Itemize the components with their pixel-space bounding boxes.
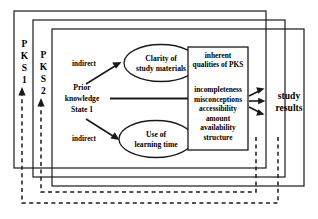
pks1-label-char-1: K [21,51,29,61]
qualities-heading-line-0: inherent [205,51,232,60]
diagram-canvas: P K S 1 P K S 2 Prior knowledge State 1 [0,0,318,219]
clarity-line-0: Clarity of [145,54,177,63]
indirect-label-top: indirect [72,60,96,68]
node-use-of-learning-time: Use of learning time [119,121,193,158]
qualities-item-1: misconceptions [194,95,242,104]
node-study-results: study results [275,90,302,113]
qualities-item-0: incompleteness [194,85,242,94]
learning-time-line-0: Use of [146,130,167,139]
feedback-loop-pks2-arrowhead [37,98,44,107]
qualities-heading-line-1: qualities of PKS [193,60,244,69]
feedback-loop-pks1-arrowhead [18,87,25,96]
indirect-label-bottom: indirect [72,135,96,143]
link-indirect-clarity-line [86,66,115,84]
link-study-results-arrowhead-1 [258,98,265,105]
learning-time-ellipse [119,121,193,158]
qualities-item-4: availability [200,123,236,132]
pks2-label-char-0: P [40,50,46,60]
prior-knowledge-state-diagram: P K S 1 P K S 2 Prior knowledge State 1 [0,0,318,219]
link-indirect-learning-time: indirect [72,119,119,143]
qualities-item-5: structure [203,133,233,142]
pks2-label-char-3: 2 [41,86,46,96]
link-study-results-arrowhead-0 [256,87,264,94]
pks2-label-char-1: K [40,62,48,72]
prior-knowledge-line-0: Prior [73,83,91,92]
link-study-results-line-0 [249,91,259,96]
link-study-results-arrowhead-2 [256,109,264,116]
link-study-results-line-2 [249,107,259,112]
qualities-item-2: accessibility [199,104,237,113]
pks1-label-char-3: 1 [22,75,27,85]
node-inherent-qualities-box: inherent qualities of PKS incompleteness… [188,47,248,150]
pks1-label-group: P K S 1 [21,39,29,85]
qualities-item-3: amount [206,114,231,123]
node-clarity-of-study-materials: Clarity of study materials [124,45,198,82]
link-indirect-learning-time-line [86,119,113,136]
clarity-ellipse [124,45,198,82]
prior-knowledge-line-2: State 1 [71,105,93,114]
pks1-label-char-0: P [21,39,27,49]
study-results-line-0: study [278,90,301,101]
study-results-line-1: results [275,102,302,113]
node-prior-knowledge: Prior knowledge State 1 [65,83,100,114]
link-qualities-to-study-results [249,87,266,116]
pks1-label-char-2: S [22,63,27,73]
link-indirect-clarity: indirect [72,60,121,84]
pks2-label-char-2: S [41,74,46,84]
clarity-line-1: study materials [136,64,186,73]
prior-knowledge-line-1: knowledge [65,94,100,103]
pks2-label-group: P K S 2 [40,50,48,96]
learning-time-line-1: learning time [134,140,178,149]
